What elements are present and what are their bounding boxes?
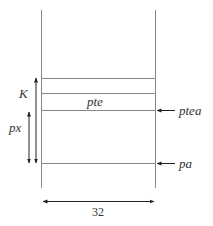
ptea-label: ptea — [178, 103, 202, 118]
width-label: 32 — [92, 205, 104, 219]
px-label: px — [8, 120, 22, 135]
k-label: K — [18, 86, 29, 101]
page-table-diagram: K px pte ptea pa 32 — [0, 0, 213, 226]
pte-label: pte — [86, 94, 103, 109]
pa-label: pa — [178, 156, 193, 171]
